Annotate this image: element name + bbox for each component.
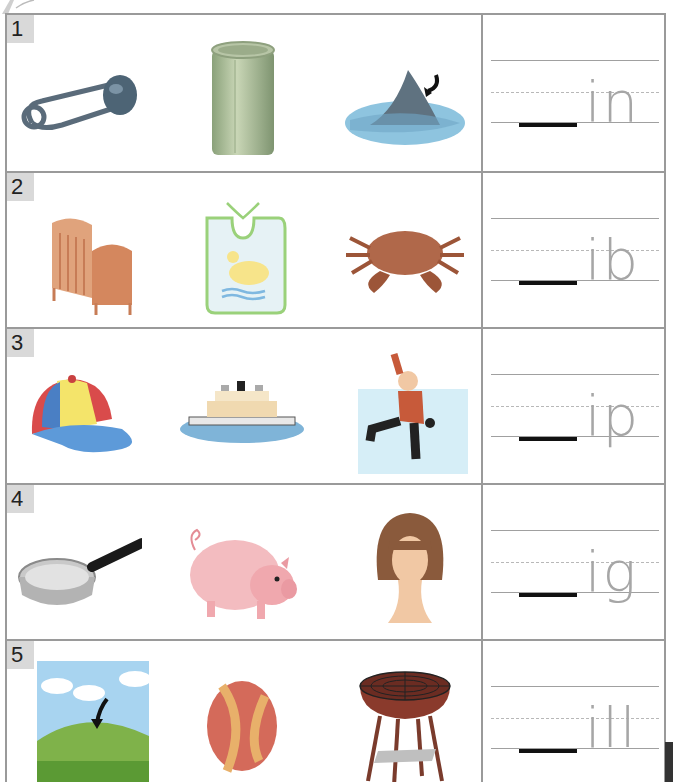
page-corner-decoration (0, 0, 50, 14)
pan-icon (12, 505, 142, 630)
top-guide-line (491, 374, 659, 375)
bib-icon (177, 193, 307, 318)
picture-area: 3 (7, 329, 483, 483)
word-ending-letters: ill (585, 700, 638, 756)
answer-blank[interactable] (519, 749, 577, 753)
top-guide-line (491, 686, 659, 687)
hill-icon (27, 661, 157, 782)
worksheet-row-5: 5 (7, 639, 664, 782)
word-writing-area: ig (485, 485, 664, 639)
boy-slipping-picture (340, 349, 470, 474)
ship-icon (177, 349, 307, 474)
answer-blank[interactable] (519, 123, 577, 127)
word-ending-letters: ig (585, 544, 638, 600)
word-ending-letters: in (585, 74, 640, 130)
cap-picture (12, 349, 142, 474)
worksheet-row-2: 2 (7, 171, 664, 327)
word-ending-letters: ib (585, 232, 640, 288)
pig-picture (177, 505, 307, 630)
crib-icon (12, 193, 142, 318)
picture-area: 5 (7, 641, 483, 782)
worksheet-row-4: 4 (7, 483, 664, 639)
ship-picture (177, 349, 307, 474)
safety-pin-picture (12, 35, 142, 160)
top-guide-line (491, 218, 659, 219)
picture-area: 1 (7, 15, 483, 171)
ball-picture (177, 661, 307, 782)
cap-icon (12, 349, 142, 474)
word-writing-area: in (485, 15, 664, 171)
answer-blank[interactable] (519, 281, 577, 285)
word-writing-area: ib (485, 173, 664, 327)
crab-picture (340, 193, 470, 318)
ball-icon (177, 661, 307, 782)
bib-picture (177, 193, 307, 318)
answer-blank[interactable] (519, 437, 577, 441)
crab-icon (340, 193, 470, 318)
grill-icon (340, 661, 470, 782)
word-writing-area: ill (485, 641, 664, 782)
word-writing-area: ip (485, 329, 664, 483)
picture-area: 2 (7, 173, 483, 327)
boy-slipping-icon (340, 349, 470, 474)
worksheet-row-1: 1 (7, 15, 664, 171)
pig-icon (177, 505, 307, 630)
safety-pin-icon (12, 35, 142, 160)
shark-fin-icon (340, 35, 470, 160)
can-icon (177, 35, 307, 160)
wig-icon (340, 505, 470, 630)
grill-picture (340, 661, 470, 782)
top-guide-line (491, 530, 659, 531)
top-guide-line (491, 60, 659, 61)
wig-picture (340, 505, 470, 630)
crib-picture (12, 193, 142, 318)
word-ending-letters: ip (585, 388, 640, 444)
picture-area: 4 (7, 485, 483, 639)
hill-picture (27, 661, 157, 782)
worksheet-row-3: 3 (7, 327, 664, 483)
can-picture (177, 35, 307, 160)
pan-picture (12, 505, 142, 630)
answer-blank[interactable] (519, 593, 577, 597)
shark-fin-picture (340, 35, 470, 160)
phonics-worksheet: 1 (5, 13, 666, 782)
page-edge-marker (665, 742, 673, 782)
